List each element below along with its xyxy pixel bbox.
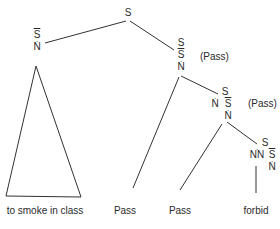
n-dot-mark: · (180, 58, 183, 66)
edge-lower-to-bottom (227, 122, 257, 144)
lower-node-s: S (222, 86, 229, 98)
lower-node-pass-note: (Pass) (248, 98, 277, 110)
mid-node-n: · N (177, 61, 184, 73)
left-node-n: · N (33, 41, 40, 53)
n-dot-mark: · (256, 146, 259, 154)
root-node-s: S (125, 7, 132, 19)
lower-node-n-bottom: · N (224, 110, 231, 122)
bottom-node-nn: · NN (250, 149, 264, 161)
tree-edges (0, 0, 280, 229)
n-dot-mark: · (227, 107, 230, 115)
n-dot-mark: · (271, 158, 274, 166)
n-dot-mark: · (214, 95, 217, 103)
leaf-pass-2: Pass (169, 205, 191, 217)
leaf-forbid: forbid (243, 205, 268, 217)
mid-node-s: S (178, 37, 185, 49)
lower-node-n: · N (211, 98, 218, 110)
leaf-to-smoke-in-class: to smoke in class (7, 205, 84, 217)
bottom-node-s: S (262, 137, 269, 149)
mid-node-pass-note: (Pass) (200, 51, 229, 63)
edge-lower-to-pass2 (180, 124, 222, 190)
triangle-left-subtree (6, 66, 81, 197)
edge-mid-to-pass1 (133, 77, 179, 188)
edge-root-right (130, 21, 174, 50)
edge-mid-to-lower (181, 76, 218, 94)
bottom-node-n-bottom: · N (268, 161, 275, 173)
n-dot-mark: · (36, 38, 39, 46)
edge-root-left (45, 21, 126, 43)
leaf-pass-1: Pass (114, 205, 136, 217)
